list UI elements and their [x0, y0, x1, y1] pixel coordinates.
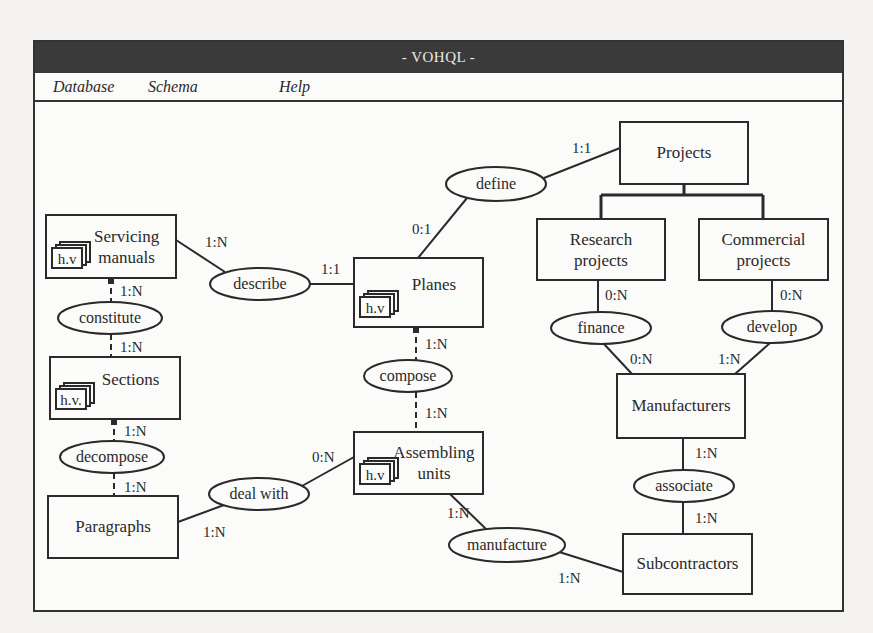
relationship-deal-with[interactable]: deal with	[209, 478, 309, 510]
cardinality-label: 1:N	[718, 351, 741, 367]
relationship-label: manufacture	[467, 536, 547, 553]
relationship-finance[interactable]: finance	[551, 312, 651, 344]
cardinality-label: 1:N	[425, 336, 448, 352]
svg-text:h.v: h.v	[58, 251, 77, 267]
entity-projects[interactable]: Projects	[620, 122, 748, 184]
relationship-label: describe	[233, 275, 286, 292]
entity-label: Planes	[412, 275, 456, 294]
cardinality-label: 0:N	[312, 449, 335, 465]
svg-text:h.v: h.v	[366, 467, 385, 483]
relationship-manufacture[interactable]: manufacture	[449, 528, 565, 562]
link-17: 1:N	[718, 343, 770, 374]
cardinality-label: 0:N	[630, 351, 653, 367]
relationship-label: deal with	[229, 485, 288, 502]
cardinality-label: 0:1	[412, 221, 431, 237]
relationship-label: constitute	[79, 309, 141, 326]
link-2: 0:1	[412, 198, 467, 258]
entity-assembling-units[interactable]: Assemblingunitsh.v	[354, 432, 483, 494]
link-13: 1:N	[556, 551, 623, 586]
svg-text:h.v: h.v	[366, 300, 385, 316]
link-1: 1:1	[310, 261, 354, 284]
entity-label: Subcontractors	[637, 554, 739, 573]
link-0: 1:N	[176, 234, 228, 272]
cardinality-label: 1:1	[572, 140, 591, 156]
cardinality-label: 0:N	[605, 287, 628, 303]
relationship-label: develop	[747, 318, 798, 336]
entity-label: Commercial	[721, 230, 805, 249]
cardinality-label: 1:N	[124, 479, 147, 495]
link-3: 1:1	[544, 140, 620, 178]
entity-planes[interactable]: Planesh.v	[354, 258, 483, 327]
cardinality-label: 0:N	[780, 287, 803, 303]
historical-versions-icon[interactable]: h.v	[360, 291, 398, 317]
entity-label: Sections	[102, 370, 160, 389]
entity-manufacturers[interactable]: Manufacturers	[617, 374, 745, 438]
svg-text:h.v.: h.v.	[60, 392, 82, 408]
link-18: 1:N	[683, 438, 718, 470]
link-8: 1:N	[413, 327, 448, 360]
er-schema-diagram: 1:N1:10:11:11:N1:N1:N1:N1:N1:N1:N0:N1:N1…	[0, 0, 873, 633]
link-19: 1:N	[683, 502, 718, 534]
entity-paragraphs[interactable]: Paragraphs	[48, 496, 178, 558]
link-10: 1:N	[178, 505, 226, 540]
entity-label: Research	[570, 230, 633, 249]
link-16: 0:N	[604, 344, 653, 374]
historical-versions-icon[interactable]: h.v	[360, 458, 398, 484]
relationship-label: compose	[380, 367, 437, 385]
link-12: 1:N	[447, 494, 486, 529]
historical-versions-icon[interactable]: h.v	[52, 242, 90, 268]
historical-versions-icon[interactable]: h.v.	[56, 383, 94, 409]
generalization-links	[601, 184, 763, 219]
relationship-constitute[interactable]: constitute	[58, 302, 162, 334]
entity-sections[interactable]: Sectionsh.v.	[50, 357, 180, 419]
cardinality-label: 1:N	[695, 445, 718, 461]
link-4: 1:N	[108, 278, 143, 302]
relationship-label: associate	[655, 477, 713, 494]
entity-commercial-projects[interactable]: Commercialprojects	[699, 219, 828, 280]
link-11: 0:N	[302, 449, 354, 486]
entity-label: manuals	[98, 248, 155, 267]
relationship-label: finance	[577, 319, 624, 336]
entity-label: units	[417, 464, 450, 483]
cardinality-label: 1:N	[203, 524, 226, 540]
entity-label: projects	[574, 251, 628, 270]
link-6: 1:N	[111, 419, 147, 441]
link-15: 0:N	[772, 280, 803, 311]
entity-research-projects[interactable]: Researchprojects	[537, 219, 665, 280]
relationship-links: 1:N1:10:11:11:N1:N1:N1:N1:N1:N1:N0:N1:N1…	[108, 140, 803, 586]
entity-label: Servicing	[94, 227, 160, 246]
link-9: 1:N	[416, 392, 448, 432]
relationship-compose[interactable]: compose	[364, 360, 452, 392]
link-14: 0:N	[598, 280, 628, 312]
entity-label: Projects	[657, 143, 712, 162]
cardinality-label: 1:N	[447, 505, 470, 521]
cardinality-label: 1:N	[558, 570, 581, 586]
cardinality-label: 1:N	[425, 405, 448, 421]
relationship-label: decompose	[76, 448, 148, 466]
entity-label: Paragraphs	[75, 517, 151, 536]
entity-label: Assembling	[393, 443, 475, 462]
cardinality-label: 1:1	[321, 261, 340, 277]
cardinality-label: 1:N	[120, 283, 143, 299]
relationship-describe[interactable]: describe	[210, 268, 310, 300]
link-5: 1:N	[111, 334, 143, 357]
relationship-develop[interactable]: develop	[722, 311, 822, 343]
entity-subcontractors[interactable]: Subcontractors	[623, 534, 752, 594]
relationship-define[interactable]: define	[446, 167, 546, 201]
entity-label: Manufacturers	[631, 396, 730, 415]
relationship-associate[interactable]: associate	[634, 470, 734, 502]
cardinality-label: 1:N	[124, 423, 147, 439]
entity-label: projects	[737, 251, 791, 270]
entity-servicing-manuals[interactable]: Servicingmanualsh.v	[46, 215, 176, 278]
cardinality-label: 1:N	[120, 339, 143, 355]
cardinality-label: 1:N	[695, 510, 718, 526]
cardinality-label: 1:N	[205, 234, 228, 250]
link-7: 1:N	[114, 473, 147, 496]
relationship-label: define	[476, 175, 516, 192]
relationship-decompose[interactable]: decompose	[60, 441, 164, 473]
